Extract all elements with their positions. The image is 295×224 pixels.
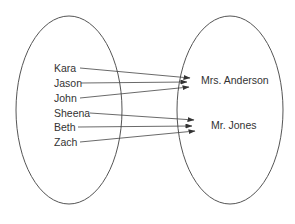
range-set-ellipse bbox=[177, 16, 283, 204]
student-label: John bbox=[54, 92, 77, 104]
teacher-label: Mrs. Anderson bbox=[201, 74, 269, 86]
mapping-arrow bbox=[80, 68, 190, 78]
student-label: Beth bbox=[54, 121, 76, 133]
student-label: Kara bbox=[54, 62, 76, 74]
student-label: Zach bbox=[54, 136, 78, 148]
mapping-arrow bbox=[78, 126, 192, 127]
mapping-arrow bbox=[81, 82, 187, 83]
teacher-label: Mr. Jones bbox=[211, 119, 257, 131]
mapping-arrow bbox=[80, 131, 195, 142]
mapping-arrow bbox=[80, 87, 189, 98]
mapping-diagram: KaraJasonJohnSheenaBethZachMrs. Anderson… bbox=[0, 0, 295, 224]
mapping-arrow bbox=[90, 113, 194, 120]
student-label: Sheena bbox=[54, 107, 90, 119]
student-label: Jason bbox=[54, 77, 82, 89]
